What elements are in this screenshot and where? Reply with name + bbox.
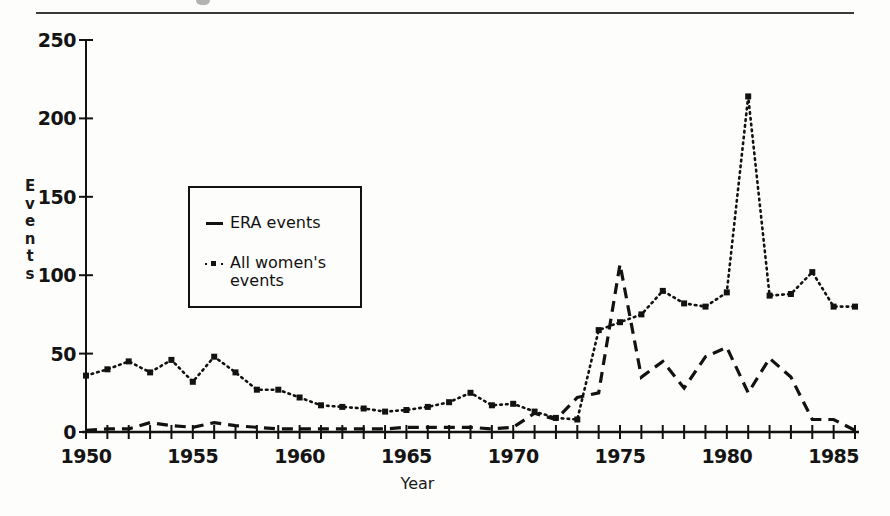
x-axis-tick-label: 1960 <box>255 445 345 467</box>
x-axis-tick-label: 1970 <box>468 445 558 467</box>
series-marker-all-womens <box>104 366 110 372</box>
chart-plot-area <box>0 0 890 516</box>
y-axis-title-letter: t <box>26 248 33 266</box>
legend-label-all-womens: All women's events <box>230 254 326 290</box>
series-marker-all-womens <box>468 390 474 396</box>
solid-line-icon <box>204 214 230 232</box>
series-marker-all-womens <box>809 269 815 275</box>
chart-page: Events Year ERA events All women's event… <box>0 0 890 516</box>
series-marker-all-womens <box>617 319 623 325</box>
series-marker-all-womens <box>83 373 89 379</box>
x-axis-tick-label: 1980 <box>682 445 772 467</box>
legend-item-era: ERA events <box>204 214 321 232</box>
x-axis-tick-label: 1965 <box>361 445 451 467</box>
series-marker-all-womens <box>788 291 794 297</box>
series-marker-all-womens <box>147 369 153 375</box>
series-marker-all-womens <box>831 304 837 310</box>
y-axis-tick-label: 0 <box>20 421 76 443</box>
series-marker-all-womens <box>638 311 644 317</box>
x-axis-tick-label: 1985 <box>789 445 879 467</box>
x-axis-title-text: Year <box>401 474 435 493</box>
x-axis-tick-label: 1950 <box>41 445 131 467</box>
series-marker-all-womens <box>446 399 452 405</box>
y-axis-tick-label: 200 <box>20 107 76 129</box>
series-marker-all-womens <box>211 354 217 360</box>
y-axis-tick-label: 250 <box>20 29 76 51</box>
dotted-line-icon <box>204 254 230 272</box>
series-marker-all-womens <box>703 304 709 310</box>
y-axis-tick-label: 50 <box>20 343 76 365</box>
series-marker-all-womens <box>190 379 196 385</box>
series-marker-all-womens <box>724 289 730 295</box>
series-marker-all-womens <box>361 406 367 412</box>
y-axis-tick-label: 100 <box>20 264 76 286</box>
series-marker-all-womens <box>275 387 281 393</box>
series-marker-all-womens <box>767 293 773 299</box>
x-axis-tick-label: 1955 <box>148 445 238 467</box>
x-axis-tick-label: 1975 <box>575 445 665 467</box>
series-marker-all-womens <box>403 407 409 413</box>
legend: ERA events All women's events <box>188 186 362 308</box>
series-marker-all-womens <box>660 288 666 294</box>
series-marker-all-womens <box>254 387 260 393</box>
series-marker-all-womens <box>297 395 303 401</box>
y-axis-title-letter: n <box>25 231 36 249</box>
legend-item-all-womens: All women's events <box>204 254 326 290</box>
series-marker-all-womens <box>596 327 602 333</box>
y-axis-title-letter: e <box>25 213 35 231</box>
series-marker-all-womens <box>852 304 858 310</box>
series-marker-all-womens <box>489 402 495 408</box>
series-marker-all-womens <box>532 409 538 415</box>
series-marker-all-womens <box>126 358 132 364</box>
series-marker-all-womens <box>382 409 388 415</box>
y-axis-tick-label: 150 <box>20 186 76 208</box>
x-axis-title: Year <box>0 474 890 493</box>
legend-label-era: ERA events <box>230 214 321 232</box>
series-marker-all-womens <box>510 401 516 407</box>
series-marker-all-womens <box>425 404 431 410</box>
series-marker-all-womens <box>318 402 324 408</box>
series-marker-all-womens <box>233 369 239 375</box>
series-marker-all-womens <box>574 417 580 423</box>
series-marker-all-womens <box>168 357 174 363</box>
series-marker-all-womens <box>745 93 751 99</box>
series-marker-all-womens <box>339 404 345 410</box>
series-marker-all-womens <box>553 415 559 421</box>
series-marker-all-womens <box>681 300 687 306</box>
